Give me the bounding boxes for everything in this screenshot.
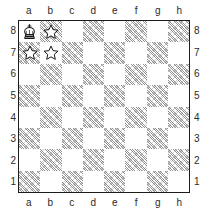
square-g6[interactable] <box>147 64 168 85</box>
rank-label-right-2: 2 <box>194 150 206 172</box>
square-a6[interactable] <box>19 64 40 85</box>
square-f1[interactable] <box>125 171 146 192</box>
square-b8[interactable] <box>40 21 61 42</box>
square-d5[interactable] <box>83 85 104 106</box>
square-c4[interactable] <box>62 107 83 128</box>
square-a8[interactable] <box>19 21 40 42</box>
file-label-top-b: b <box>40 6 62 16</box>
square-g2[interactable] <box>147 149 168 170</box>
square-b6[interactable] <box>40 64 61 85</box>
square-c3[interactable] <box>62 128 83 149</box>
square-b3[interactable] <box>40 128 61 149</box>
rank-label-left-5: 5 <box>4 85 16 107</box>
square-e2[interactable] <box>104 149 125 170</box>
square-d3[interactable] <box>83 128 104 149</box>
square-c6[interactable] <box>62 64 83 85</box>
file-label-top-f: f <box>126 6 148 16</box>
square-g8[interactable] <box>147 21 168 42</box>
rank-label-right-3: 3 <box>194 128 206 150</box>
file-label-top-e: e <box>104 6 126 16</box>
star-icon[interactable] <box>40 21 61 42</box>
rank-label-right-7: 7 <box>194 42 206 64</box>
square-f2[interactable] <box>125 149 146 170</box>
square-b1[interactable] <box>40 171 61 192</box>
square-e7[interactable] <box>104 42 125 63</box>
square-f7[interactable] <box>125 42 146 63</box>
file-label-top-a: a <box>18 6 40 16</box>
file-label-bottom-g: g <box>147 198 169 208</box>
king-icon[interactable] <box>19 21 40 42</box>
star-icon[interactable] <box>19 42 40 63</box>
square-e1[interactable] <box>104 171 125 192</box>
file-label-top-g: g <box>147 6 169 16</box>
rank-label-right-8: 8 <box>194 20 206 42</box>
square-e5[interactable] <box>104 85 125 106</box>
file-label-bottom-h: h <box>169 198 191 208</box>
board-grid <box>19 21 189 192</box>
square-g4[interactable] <box>147 107 168 128</box>
square-b7[interactable] <box>40 42 61 63</box>
square-h7[interactable] <box>168 42 189 63</box>
square-e3[interactable] <box>104 128 125 149</box>
rank-label-left-7: 7 <box>4 42 16 64</box>
square-h2[interactable] <box>168 149 189 170</box>
file-label-top-c: c <box>61 6 83 16</box>
square-c1[interactable] <box>62 171 83 192</box>
file-label-bottom-b: b <box>40 198 62 208</box>
rank-label-left-4: 4 <box>4 107 16 129</box>
square-h4[interactable] <box>168 107 189 128</box>
square-c7[interactable] <box>62 42 83 63</box>
square-g7[interactable] <box>147 42 168 63</box>
rank-label-right-6: 6 <box>194 63 206 85</box>
square-f4[interactable] <box>125 107 146 128</box>
square-f8[interactable] <box>125 21 146 42</box>
square-f6[interactable] <box>125 64 146 85</box>
square-a1[interactable] <box>19 171 40 192</box>
square-c2[interactable] <box>62 149 83 170</box>
square-h6[interactable] <box>168 64 189 85</box>
file-label-bottom-d: d <box>83 198 105 208</box>
square-a7[interactable] <box>19 42 40 63</box>
rank-label-left-6: 6 <box>4 63 16 85</box>
square-h8[interactable] <box>168 21 189 42</box>
square-a4[interactable] <box>19 107 40 128</box>
square-f3[interactable] <box>125 128 146 149</box>
chessboard[interactable] <box>18 20 190 193</box>
square-a5[interactable] <box>19 85 40 106</box>
star-icon[interactable] <box>40 42 61 63</box>
file-label-top-h: h <box>169 6 191 16</box>
file-label-top-d: d <box>83 6 105 16</box>
square-b4[interactable] <box>40 107 61 128</box>
square-b5[interactable] <box>40 85 61 106</box>
rank-label-left-2: 2 <box>4 150 16 172</box>
rank-label-right-5: 5 <box>194 85 206 107</box>
square-f5[interactable] <box>125 85 146 106</box>
file-label-bottom-a: a <box>18 198 40 208</box>
square-d1[interactable] <box>83 171 104 192</box>
square-g1[interactable] <box>147 171 168 192</box>
square-g3[interactable] <box>147 128 168 149</box>
square-e6[interactable] <box>104 64 125 85</box>
square-e8[interactable] <box>104 21 125 42</box>
square-d4[interactable] <box>83 107 104 128</box>
file-label-bottom-c: c <box>61 198 83 208</box>
rank-label-right-4: 4 <box>194 107 206 129</box>
rank-label-left-8: 8 <box>4 20 16 42</box>
square-a3[interactable] <box>19 128 40 149</box>
square-d7[interactable] <box>83 42 104 63</box>
square-c5[interactable] <box>62 85 83 106</box>
square-a2[interactable] <box>19 149 40 170</box>
square-e4[interactable] <box>104 107 125 128</box>
square-g5[interactable] <box>147 85 168 106</box>
square-b2[interactable] <box>40 149 61 170</box>
square-c8[interactable] <box>62 21 83 42</box>
square-d6[interactable] <box>83 64 104 85</box>
square-h5[interactable] <box>168 85 189 106</box>
square-h3[interactable] <box>168 128 189 149</box>
file-label-bottom-f: f <box>126 198 148 208</box>
chess-diagram: abcdefgh 87654321 87654321 abcdefgh <box>0 0 209 215</box>
square-d2[interactable] <box>83 149 104 170</box>
file-label-bottom-e: e <box>104 198 126 208</box>
square-d8[interactable] <box>83 21 104 42</box>
square-h1[interactable] <box>168 171 189 192</box>
